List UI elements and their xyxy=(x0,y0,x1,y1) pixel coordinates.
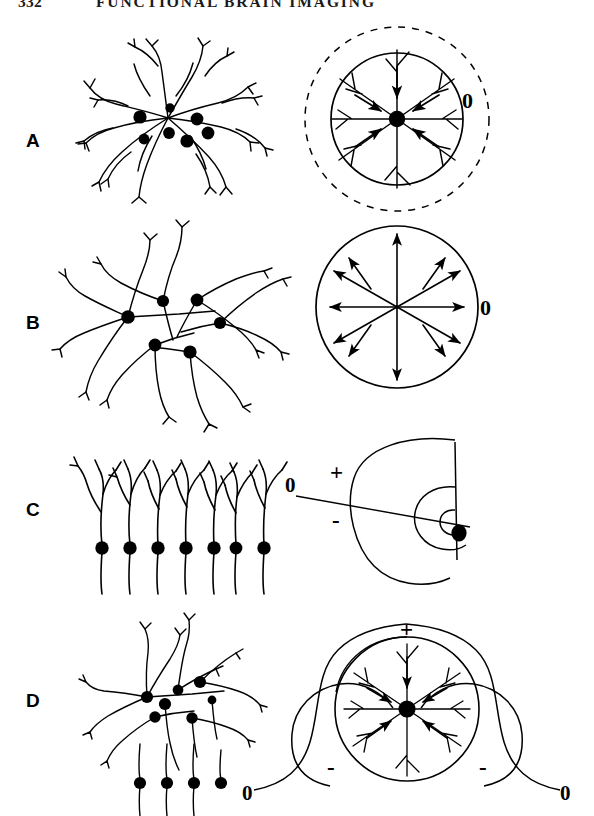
panel-c-somata xyxy=(95,541,270,554)
panel-d-label-zero-left: 0 xyxy=(242,781,253,805)
panel-d-label-minus-right: - xyxy=(479,755,487,780)
panel-c-field-labels: 0 + - xyxy=(285,460,343,533)
panel-a-somata xyxy=(133,103,214,147)
panel-c-label-minus: - xyxy=(332,508,340,533)
panel-c-label-zero: 0 xyxy=(285,473,296,497)
panel-c-soma-dot xyxy=(451,524,466,541)
panel-a-field-diagram xyxy=(305,27,489,211)
panel-d-label-zero-right: 0 xyxy=(560,781,571,805)
panel-a-neuron-cluster xyxy=(76,38,273,203)
panel-d-label-plus: + xyxy=(400,617,413,642)
panel-c-label-plus: + xyxy=(330,460,343,485)
figure-page: 332 FUNCTIONAL BRAIN IMAGING A B C D xyxy=(0,0,594,816)
panel-b-neuron-cluster xyxy=(52,220,291,432)
panel-c-zero-potential-line xyxy=(296,496,470,527)
panel-c-cell-layer-line xyxy=(455,442,457,560)
panel-c-field-diagram xyxy=(296,439,470,585)
panel-d-neuron-cluster xyxy=(79,613,267,816)
panel-b-somata xyxy=(121,294,226,359)
figure-artwork: 0 + - xyxy=(0,0,594,816)
panel-c-pyramidal-palisade xyxy=(70,457,287,594)
panel-a-central-sink-dot xyxy=(389,111,405,127)
panel-c-outer-isopotential xyxy=(350,439,455,585)
panel-b-field-diagram xyxy=(316,226,478,388)
panel-d-label-minus-left: - xyxy=(327,755,335,780)
panel-b-label-zero: 0 xyxy=(480,295,491,320)
panel-d-inner-lobe-right xyxy=(421,684,522,786)
panel-d-somata xyxy=(134,676,227,789)
panel-d-inner-lobe-left xyxy=(292,684,393,786)
panel-a-label-zero: 0 xyxy=(462,88,473,113)
panel-d-central-sink-dot xyxy=(398,700,415,717)
panel-b-center-point xyxy=(395,305,399,309)
